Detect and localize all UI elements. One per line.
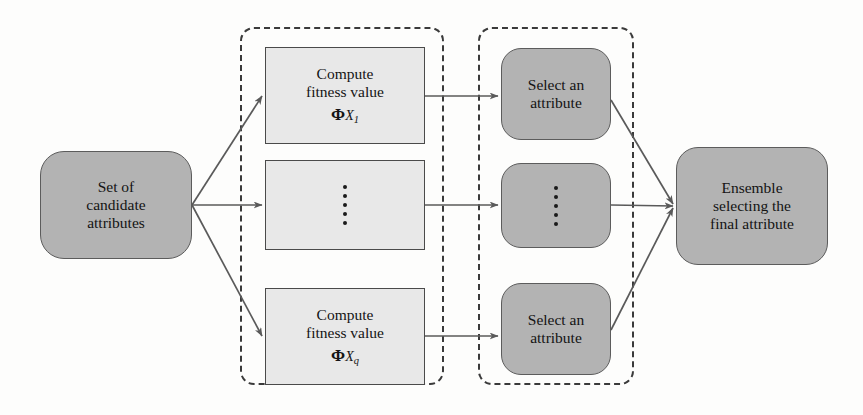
node-select-an-attribute-top[interactable]: Select an attribute [501, 48, 611, 140]
node-label-line: candidate [86, 196, 145, 214]
node-label-line: Select an [528, 311, 584, 329]
node-label: Compute fitness value ΦXq [306, 306, 384, 367]
diagram-canvas: Set of candidate attributes Compute fitn… [0, 0, 863, 415]
fitness-symbol-xq: ΦXq [306, 346, 384, 367]
node-label-line: Compute [306, 306, 384, 324]
vertical-ellipsis-icon [554, 186, 558, 226]
node-label-line: attribute [528, 329, 584, 347]
phi-variable: X [345, 349, 354, 364]
node-label-line: fitness value [306, 324, 384, 342]
node-set-of-candidate-attributes[interactable]: Set of candidate attributes [40, 151, 192, 259]
node-label: Select an attribute [528, 311, 584, 348]
fitness-symbol-x1: ΦX1 [306, 105, 384, 126]
node-select-attribute-ellipsis[interactable] [501, 163, 611, 248]
node-label-line: Ensemble [710, 179, 794, 197]
node-label-line: Select an [528, 76, 584, 94]
node-label-line: attributes [86, 214, 145, 232]
node-label-line: selecting the [710, 197, 794, 215]
phi-symbol: Φ [331, 105, 345, 124]
vertical-ellipsis-icon [343, 185, 347, 225]
node-label: Select an attribute [528, 76, 584, 113]
node-label: Compute fitness value ΦX1 [306, 65, 384, 126]
node-label: Set of candidate attributes [86, 178, 145, 233]
node-label-line: final attribute [710, 215, 794, 233]
node-compute-fitness-ellipsis[interactable] [265, 160, 425, 250]
phi-subscript: q [354, 355, 359, 366]
node-label-line: attribute [528, 94, 584, 112]
node-compute-fitness-value-xq[interactable]: Compute fitness value ΦXq [265, 288, 425, 385]
node-select-an-attribute-bottom[interactable]: Select an attribute [501, 283, 611, 375]
phi-subscript: 1 [354, 114, 359, 125]
node-label: Ensemble selecting the final attribute [710, 179, 794, 234]
phi-symbol: Φ [331, 346, 345, 365]
node-compute-fitness-value-x1[interactable]: Compute fitness value ΦX1 [265, 47, 425, 144]
node-ensemble-selecting-final-attribute[interactable]: Ensemble selecting the final attribute [676, 147, 828, 265]
node-label-line: fitness value [306, 83, 384, 101]
node-label-line: Compute [306, 65, 384, 83]
phi-variable: X [345, 108, 354, 123]
node-label-line: Set of [86, 178, 145, 196]
